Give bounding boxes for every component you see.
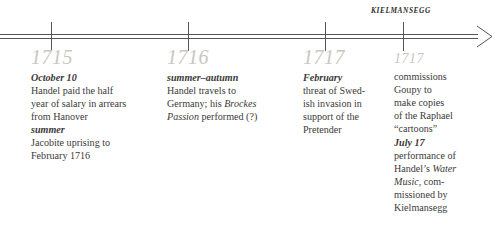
event-line: threat of Swed- — [303, 84, 387, 97]
event-date: July 17 — [394, 136, 490, 149]
event-line: support of the — [303, 110, 387, 123]
event-line: February 1716 — [31, 149, 157, 162]
event-line: “cartoons” — [394, 122, 490, 135]
event-line: year of salary in arrears — [31, 97, 157, 110]
entry-body: October 10 Handel paid the half year of … — [31, 71, 157, 163]
event-line: commissions — [394, 70, 490, 83]
timeline-entry-1715: 1715 October 10 Handel paid the half yea… — [31, 47, 157, 162]
event-line: performance of — [394, 149, 490, 162]
event-date: summer — [31, 123, 157, 136]
timeline-entries: 1715 October 10 Handel paid the half yea… — [0, 47, 502, 240]
work-title-part: Brockes — [224, 98, 256, 109]
event-line: make copies — [394, 96, 490, 109]
era-label: KIELMANSEGG — [371, 6, 431, 15]
entry-body: commissions Goupy to make copies of the … — [394, 70, 490, 214]
axis-arrowhead-icon — [477, 26, 492, 47]
work-title-part: Music — [394, 176, 419, 187]
event-date: October 10 — [31, 71, 157, 84]
entry-year-label: 1717 — [303, 47, 387, 69]
event-line: Music, com- — [394, 175, 490, 188]
event-line: Germany; his Brockes — [167, 97, 293, 110]
timeline-entry-1717-february: 1717 February threat of Swed- ish invasi… — [303, 47, 387, 136]
entry-body: February threat of Swed- ish invasion in… — [303, 71, 387, 136]
event-line: Jacobite uprising to — [31, 136, 157, 149]
timeline-entry-1716: 1716 summer–autumn Handel travels to Ger… — [167, 47, 293, 123]
entry-year-label: 1717 — [394, 47, 490, 68]
event-line: Handel’s Water — [394, 162, 490, 175]
event-line: Goupy to — [394, 83, 490, 96]
entry-year-label: 1716 — [167, 47, 293, 69]
event-line: Passion performed (?) — [167, 110, 293, 123]
event-line: missioned by — [394, 188, 490, 201]
event-line: Kielmansegg — [394, 201, 490, 214]
event-date: summer–autumn — [167, 71, 293, 84]
event-date: February — [303, 71, 387, 84]
work-title-part: Water — [432, 163, 456, 174]
event-line: of the Raphael — [394, 109, 490, 122]
event-line: ish invasion in — [303, 97, 387, 110]
entry-body: summer–autumn Handel travels to Germany;… — [167, 71, 293, 123]
timeline-entry-1717-commissions: 1717 commissions Goupy to make copies of… — [394, 47, 490, 214]
event-line: from Hanover — [31, 110, 157, 123]
entry-year-label: 1715 — [31, 47, 157, 69]
work-title-part: Passion — [167, 111, 199, 122]
event-line: Handel paid the half — [31, 84, 157, 97]
event-line: Pretender — [303, 123, 387, 136]
event-line: Handel travels to — [167, 84, 293, 97]
